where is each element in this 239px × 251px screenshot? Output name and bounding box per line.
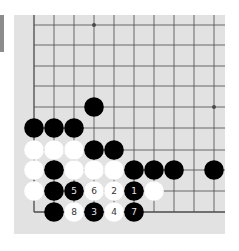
white-stone[interactable]	[64, 160, 84, 180]
move-number: 2	[111, 186, 117, 196]
black-stone[interactable]	[164, 160, 184, 180]
move-number: 4	[111, 207, 117, 217]
star-point	[92, 23, 96, 27]
white-stone[interactable]: 8	[64, 202, 84, 222]
black-stone[interactable]	[44, 181, 64, 201]
white-stone[interactable]	[144, 181, 164, 201]
white-stone[interactable]	[104, 160, 124, 180]
white-stone[interactable]: 6	[84, 181, 104, 201]
white-stone[interactable]: 4	[104, 202, 124, 222]
move-number: 6	[91, 186, 97, 196]
move-number: 8	[71, 207, 77, 217]
black-stone[interactable]: 1	[124, 181, 144, 201]
black-stone[interactable]	[24, 118, 44, 138]
white-stone[interactable]	[84, 160, 104, 180]
black-stone[interactable]: 5	[64, 181, 84, 201]
black-stone[interactable]	[84, 140, 104, 160]
white-stone[interactable]	[44, 140, 64, 160]
black-stone[interactable]	[64, 118, 84, 138]
black-stone[interactable]	[204, 160, 224, 180]
white-stone[interactable]: 2	[104, 181, 124, 201]
board-grid[interactable]: 56218347	[14, 15, 225, 234]
black-stone[interactable]	[144, 160, 164, 180]
black-stone[interactable]	[44, 160, 64, 180]
black-stone[interactable]	[124, 160, 144, 180]
black-stone[interactable]: 3	[84, 202, 104, 222]
white-stone[interactable]	[24, 140, 44, 160]
black-stone[interactable]: 7	[124, 202, 144, 222]
black-stone[interactable]	[44, 118, 64, 138]
move-number: 1	[131, 186, 137, 196]
side-tab[interactable]	[0, 15, 4, 52]
black-stone[interactable]	[84, 97, 104, 117]
white-stone[interactable]	[24, 181, 44, 201]
black-stone[interactable]	[44, 202, 64, 222]
move-number: 7	[131, 207, 137, 217]
go-board[interactable]: 56218347	[14, 15, 225, 234]
white-stone[interactable]	[24, 160, 44, 180]
star-point	[212, 105, 216, 109]
white-stone[interactable]	[64, 140, 84, 160]
black-stone[interactable]	[104, 140, 124, 160]
move-number: 3	[91, 207, 97, 217]
move-number: 5	[71, 186, 77, 196]
